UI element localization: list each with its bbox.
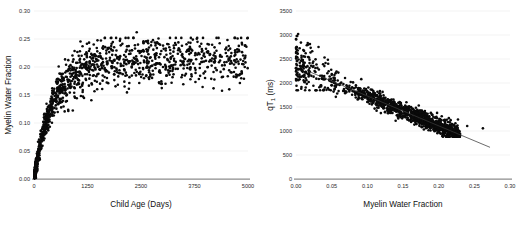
- data-point: [450, 124, 453, 127]
- data-point: [215, 49, 218, 52]
- data-point: [303, 81, 306, 84]
- data-point: [96, 63, 99, 66]
- data-point: [116, 62, 119, 65]
- data-point: [76, 51, 79, 54]
- data-point: [200, 50, 203, 53]
- data-point: [99, 55, 102, 58]
- data-point: [79, 86, 82, 89]
- data-point: [295, 67, 298, 70]
- data-point: [88, 77, 91, 80]
- data-point: [454, 122, 457, 125]
- data-point: [410, 111, 413, 114]
- x-tick-label: 0.05: [326, 183, 337, 189]
- data-point: [212, 87, 215, 90]
- data-point: [103, 76, 106, 79]
- data-point: [123, 69, 126, 72]
- data-point: [169, 49, 172, 52]
- data-point: [156, 47, 159, 50]
- data-point: [235, 61, 238, 64]
- data-point: [68, 65, 71, 68]
- data-point: [72, 58, 75, 61]
- data-point: [215, 37, 218, 40]
- data-point: [60, 98, 63, 101]
- data-point: [175, 37, 178, 40]
- data-point: [108, 51, 111, 54]
- data-point: [55, 94, 58, 97]
- data-point: [406, 109, 409, 112]
- data-point: [447, 121, 450, 124]
- data-point: [60, 73, 63, 76]
- data-point: [371, 103, 374, 106]
- data-point: [336, 92, 339, 95]
- data-point: [77, 83, 80, 86]
- data-point: [399, 113, 402, 116]
- data-point: [96, 50, 99, 53]
- data-point: [48, 105, 51, 108]
- data-point: [166, 58, 169, 61]
- data-point: [300, 54, 303, 57]
- data-point: [399, 110, 402, 113]
- data-point: [427, 129, 430, 132]
- data-point: [386, 100, 389, 103]
- data-point: [128, 87, 131, 90]
- data-point: [198, 67, 201, 70]
- data-point: [73, 76, 76, 79]
- data-point: [414, 120, 417, 123]
- data-point: [49, 126, 52, 129]
- data-point: [58, 89, 61, 92]
- data-point: [188, 50, 191, 53]
- data-point: [59, 79, 62, 82]
- data-point: [33, 169, 36, 172]
- data-point: [185, 43, 188, 46]
- data-point: [233, 37, 236, 40]
- data-point: [424, 110, 427, 113]
- data-point: [344, 77, 347, 80]
- data-point: [307, 81, 310, 84]
- data-point: [430, 112, 433, 115]
- data-point: [192, 62, 195, 65]
- data-point: [198, 45, 201, 48]
- data-point: [49, 113, 52, 116]
- data-point: [61, 101, 64, 104]
- data-point: [152, 48, 155, 51]
- y-tick-label: 0.05: [19, 148, 30, 154]
- data-point: [432, 115, 435, 118]
- data-point: [134, 44, 137, 47]
- data-point: [137, 63, 140, 66]
- data-point: [200, 57, 203, 60]
- data-point: [165, 74, 168, 77]
- data-point: [330, 84, 333, 87]
- data-point: [73, 95, 76, 98]
- data-point: [336, 79, 339, 82]
- data-point: [33, 172, 36, 175]
- data-point: [151, 77, 154, 80]
- data-point: [202, 72, 205, 75]
- data-point: [65, 76, 68, 79]
- data-point: [383, 106, 386, 109]
- y-axis-title: qT1 (ms): [266, 79, 276, 111]
- x-tick-label: 5000: [242, 183, 254, 189]
- data-point: [422, 113, 425, 116]
- data-point: [304, 71, 307, 74]
- data-point: [57, 65, 60, 68]
- data-point: [158, 69, 161, 72]
- data-point: [169, 52, 172, 55]
- data-point: [315, 63, 318, 66]
- data-point: [214, 67, 217, 70]
- data-point: [239, 82, 242, 85]
- data-point: [211, 57, 214, 60]
- data-point: [319, 89, 322, 92]
- data-point: [371, 100, 374, 103]
- data-point: [421, 126, 424, 129]
- data-point: [186, 63, 189, 66]
- x-tick-label: 0.20: [433, 183, 444, 189]
- data-point: [198, 78, 201, 81]
- data-point: [152, 73, 155, 76]
- data-point: [405, 113, 408, 116]
- data-point: [122, 58, 125, 61]
- data-point: [419, 111, 422, 114]
- data-point: [332, 90, 335, 93]
- data-point: [43, 131, 46, 134]
- data-point: [56, 78, 59, 81]
- data-point: [142, 50, 145, 53]
